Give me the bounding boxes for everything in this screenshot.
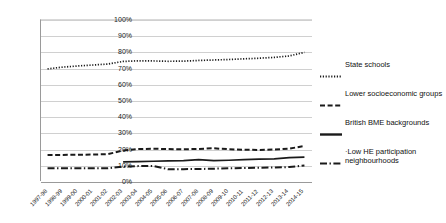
legend-line-swatch xyxy=(320,93,342,96)
series-line xyxy=(48,165,305,169)
legend-item[interactable]: ·Low HE participation neighbourhoods xyxy=(320,147,444,165)
legend-item[interactable]: British BME backgrounds xyxy=(320,118,444,136)
legend-line-swatch xyxy=(320,122,342,125)
line-chart: 100%90%80%70%60%50%40%30%20%10%0% 1997-9… xyxy=(0,0,446,223)
legend-line-swatch xyxy=(320,64,342,67)
chart-legend: State schoolsLower socioeconomic groupsB… xyxy=(320,60,444,176)
series-line xyxy=(48,146,305,155)
legend-line-swatch xyxy=(320,151,342,154)
series-lines xyxy=(40,19,312,181)
legend-label: British BME backgrounds xyxy=(345,118,444,127)
series-line xyxy=(123,157,304,162)
legend-item[interactable]: State schools xyxy=(320,60,444,78)
legend-item[interactable]: Lower socioeconomic groups xyxy=(320,89,444,107)
legend-label: ·Low HE participation neighbourhoods xyxy=(345,147,444,165)
gridline xyxy=(41,182,312,183)
legend-label: Lower socioeconomic groups xyxy=(345,89,444,98)
legend-label: State schools xyxy=(345,60,444,69)
series-line xyxy=(48,52,305,69)
